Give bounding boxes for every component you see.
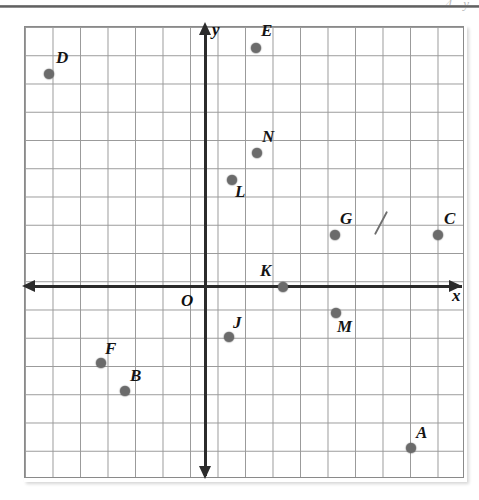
point-label-g: G (340, 209, 352, 229)
y-axis-up-arrow-icon (199, 22, 211, 35)
y-axis-line (204, 28, 207, 476)
point-label-m: M (337, 317, 352, 337)
point-label-f: F (105, 339, 116, 359)
point-marker-j (224, 332, 234, 342)
point-marker-e (251, 43, 261, 53)
point-label-j: J (233, 313, 242, 333)
point-marker-c (433, 230, 443, 240)
point-label-c: C (444, 209, 455, 229)
header-divider-rule (0, 5, 479, 8)
origin-label: O (181, 291, 193, 311)
y-axis-label: y (212, 20, 220, 40)
x-axis-left-arrow-icon (22, 280, 35, 292)
point-label-b: B (130, 366, 141, 386)
coordinate-grid (24, 26, 464, 478)
point-label-a: A (416, 423, 427, 443)
point-marker-n (252, 148, 262, 158)
point-marker-k (278, 282, 288, 292)
x-axis-line (26, 285, 462, 288)
worksheet-page: 4 y x y O DENLGCKMJFBA (0, 0, 479, 500)
point-marker-b (120, 386, 130, 396)
point-label-d: D (56, 48, 68, 68)
point-marker-f (96, 358, 106, 368)
y-axis-down-arrow-icon (199, 466, 211, 479)
point-label-e: E (261, 21, 272, 41)
point-marker-d (44, 69, 54, 79)
point-label-l: L (235, 182, 245, 202)
point-label-n: N (262, 127, 274, 147)
point-label-k: K (260, 261, 271, 281)
point-marker-a (406, 443, 416, 453)
x-axis-label: x (452, 286, 461, 306)
point-marker-g (330, 230, 340, 240)
